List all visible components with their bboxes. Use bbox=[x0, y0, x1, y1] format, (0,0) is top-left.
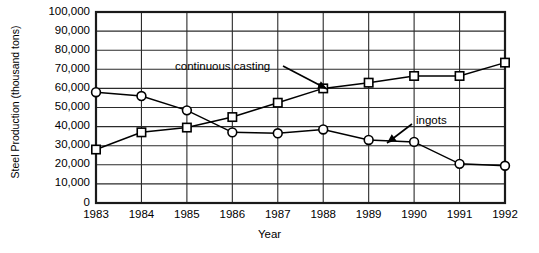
y-axis-tick-label: 50,000 bbox=[20, 100, 90, 112]
data-point-marker bbox=[364, 136, 373, 145]
data-point-marker bbox=[274, 99, 282, 107]
y-axis-tick-label: 30,000 bbox=[20, 138, 90, 150]
series-line-ingots bbox=[96, 92, 505, 166]
data-point-marker bbox=[228, 113, 236, 121]
data-point-marker bbox=[410, 72, 418, 80]
y-axis-tick-label: 60,000 bbox=[20, 81, 90, 93]
x-axis-label: Year bbox=[0, 228, 539, 240]
data-point-marker bbox=[501, 161, 510, 170]
data-point-marker bbox=[455, 72, 463, 80]
y-axis-tick-label: 40,000 bbox=[20, 119, 90, 131]
y-axis-tick-label: 100,000 bbox=[20, 5, 90, 17]
series-annotation-label: ingots bbox=[416, 114, 447, 126]
data-point-marker bbox=[410, 137, 419, 146]
data-point-marker bbox=[183, 123, 191, 131]
data-point-marker bbox=[92, 145, 100, 153]
data-point-marker bbox=[182, 106, 191, 115]
data-point-marker bbox=[364, 78, 372, 86]
y-axis-tick-label: 70,000 bbox=[20, 62, 90, 74]
gridlines-horizontal bbox=[96, 12, 505, 203]
chart-container: Steel Production (thousand tons) 100,000… bbox=[0, 0, 539, 253]
series-annotation-label: continuous casting bbox=[175, 60, 270, 72]
data-point-marker bbox=[319, 125, 328, 134]
y-axis-tick-label: 80,000 bbox=[20, 43, 90, 55]
data-point-marker bbox=[455, 159, 464, 168]
data-point-marker bbox=[228, 128, 237, 137]
data-point-marker bbox=[137, 92, 146, 101]
y-axis-tick-label: 20,000 bbox=[20, 157, 90, 169]
data-point-marker bbox=[273, 129, 282, 138]
y-axis-tick-label: 90,000 bbox=[20, 24, 90, 36]
x-axis-tick-label: 1992 bbox=[475, 208, 535, 220]
data-point-marker bbox=[501, 58, 509, 66]
data-point-marker bbox=[92, 88, 101, 97]
y-axis-tick-label: 10,000 bbox=[20, 176, 90, 188]
y-axis-tick-label: 0 bbox=[20, 196, 90, 208]
data-point-marker bbox=[137, 128, 145, 136]
